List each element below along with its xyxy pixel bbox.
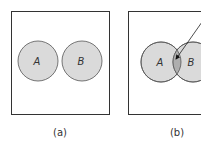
panel-b-circle-a-label: A xyxy=(156,57,164,68)
panel-b: A B xyxy=(129,12,202,115)
panel-b-caption: (b) xyxy=(170,127,184,138)
panel-a-caption: (a) xyxy=(53,127,67,138)
panel-b-circle-b-label: B xyxy=(188,57,195,68)
panel-a-circle-b-label: B xyxy=(78,56,85,67)
panel-a: A B xyxy=(12,12,110,115)
panel-a-circle-a-label: A xyxy=(33,56,41,67)
venn-diagram-figure: A B A B xyxy=(0,0,201,143)
